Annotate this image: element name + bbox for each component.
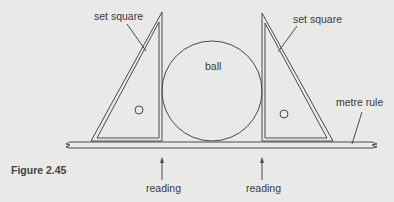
leader-set-square-left <box>127 24 146 51</box>
metre-rule <box>66 142 377 148</box>
label-reading-left: reading <box>146 182 181 194</box>
right-set-square <box>262 13 333 141</box>
label-metre-rule: metre rule <box>336 96 383 108</box>
ball <box>162 41 262 141</box>
label-reading-right: reading <box>246 182 281 194</box>
leader-metre-rule <box>352 112 362 144</box>
leader-set-square-right <box>278 26 297 52</box>
reading-arrow-left <box>160 157 164 180</box>
label-set-square-left: set square <box>94 10 143 22</box>
figure-caption: Figure 2.45 <box>11 164 66 176</box>
label-set-square-right: set square <box>293 13 342 25</box>
reading-arrow-right <box>260 157 264 180</box>
left-set-square <box>91 12 162 141</box>
label-ball: ball <box>205 60 221 72</box>
